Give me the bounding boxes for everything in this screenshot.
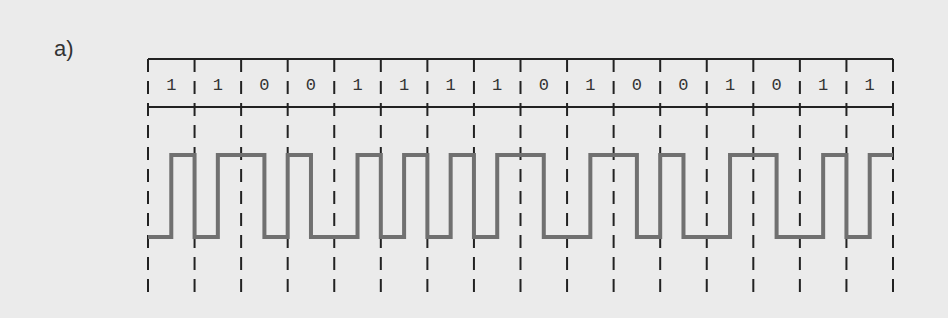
bit-value: 0	[539, 76, 549, 95]
bit-value: 1	[352, 76, 362, 95]
bit-value: 1	[725, 76, 735, 95]
manchester-encoding-diagram: 1100111101001011	[0, 0, 948, 318]
bit-value: 0	[632, 76, 642, 95]
bit-value: 1	[446, 76, 456, 95]
bit-value: 0	[306, 76, 316, 95]
bit-value: 1	[818, 76, 828, 95]
bit-value: 0	[259, 76, 269, 95]
bit-value: 1	[585, 76, 595, 95]
bit-value: 0	[771, 76, 781, 95]
bit-value: 1	[492, 76, 502, 95]
bit-value: 1	[399, 76, 409, 95]
bit-value: 1	[166, 76, 176, 95]
bit-value: 1	[865, 76, 875, 95]
bit-value: 0	[678, 76, 688, 95]
bit-value: 1	[213, 76, 223, 95]
